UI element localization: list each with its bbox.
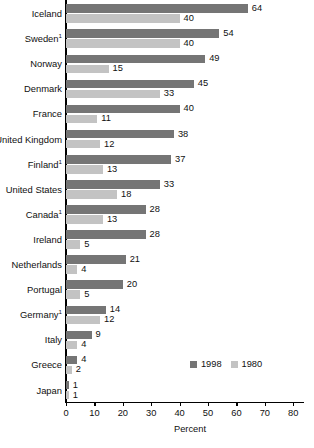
bar-value-label: 4 bbox=[81, 265, 86, 274]
bar-value-label: 38 bbox=[178, 130, 188, 139]
bar-1980 bbox=[66, 39, 180, 48]
bar-value-label: 4 bbox=[81, 355, 86, 364]
bar-1998 bbox=[66, 356, 77, 365]
bar-value-label: 64 bbox=[252, 4, 262, 13]
bar-1998 bbox=[66, 255, 126, 264]
category-label: France bbox=[0, 109, 62, 118]
category-label: Finland1 bbox=[0, 160, 62, 169]
bar-1980 bbox=[66, 90, 160, 99]
bar-value-label: 33 bbox=[164, 89, 174, 98]
category-label: United States bbox=[0, 185, 62, 194]
bar-value-label: 12 bbox=[104, 315, 114, 324]
category-label: Canada1 bbox=[0, 210, 62, 219]
bar-1998 bbox=[66, 4, 248, 13]
bar-row: Japan11 bbox=[66, 378, 314, 403]
bar-value-label: 1 bbox=[73, 391, 78, 400]
bar-value-label: 13 bbox=[107, 215, 117, 224]
bar-value-label: 5 bbox=[84, 290, 89, 299]
legend-label: 1980 bbox=[241, 360, 262, 369]
bar-row: Iceland6440 bbox=[66, 1, 314, 26]
x-tick-mark bbox=[180, 402, 181, 406]
bar-1980 bbox=[66, 115, 97, 124]
category-label: Norway bbox=[0, 59, 62, 68]
bar-row: Finland13713 bbox=[66, 152, 314, 177]
bar-1980 bbox=[66, 391, 69, 400]
x-tick-mark bbox=[208, 402, 209, 406]
bar-row: Sweden15440 bbox=[66, 26, 314, 51]
bar-row: Netherlands214 bbox=[66, 252, 314, 277]
bar-row: Italy94 bbox=[66, 327, 314, 352]
legend-entry-1980: 1980 bbox=[231, 360, 263, 369]
category-label: Italy bbox=[0, 335, 62, 344]
category-label: Ireland bbox=[0, 235, 62, 244]
bar-1980 bbox=[66, 240, 80, 249]
bar-row: United States3318 bbox=[66, 177, 314, 202]
category-label: Netherlands bbox=[0, 260, 62, 269]
bar-value-label: 37 bbox=[175, 155, 185, 164]
x-tick-label: 40 bbox=[174, 409, 184, 418]
bar-1980 bbox=[66, 290, 80, 299]
bar-value-label: 2 bbox=[76, 365, 81, 374]
bar-row: Ireland285 bbox=[66, 227, 314, 252]
bar-1998 bbox=[66, 155, 171, 164]
bar-row: France4011 bbox=[66, 101, 314, 126]
legend-entry-1998: 1998 bbox=[190, 360, 222, 369]
x-tick-mark bbox=[66, 402, 67, 406]
bar-value-label: 14 bbox=[110, 305, 120, 314]
bar-1998 bbox=[66, 280, 123, 289]
bar-value-label: 13 bbox=[107, 165, 117, 174]
category-label: Japan bbox=[0, 386, 62, 395]
bar-value-label: 9 bbox=[96, 330, 101, 339]
x-tick-mark bbox=[293, 402, 294, 406]
bar-value-label: 40 bbox=[184, 104, 194, 113]
bar-1980 bbox=[66, 265, 77, 274]
x-tick-label: 70 bbox=[260, 409, 270, 418]
bar-1998 bbox=[66, 180, 160, 189]
bar-1980 bbox=[66, 190, 117, 199]
bar-value-label: 1 bbox=[73, 381, 78, 390]
x-tick-label: 50 bbox=[203, 409, 213, 418]
x-tick-mark bbox=[123, 402, 124, 406]
bar-value-label: 40 bbox=[184, 14, 194, 23]
bar-row: Denmark4533 bbox=[66, 76, 314, 101]
bar-1998 bbox=[66, 130, 174, 139]
category-label: Germany1 bbox=[0, 310, 62, 319]
bar-value-label: 18 bbox=[121, 190, 131, 199]
bar-value-label: 5 bbox=[84, 240, 89, 249]
category-label: Denmark bbox=[0, 84, 62, 93]
bar-value-label: 49 bbox=[209, 54, 219, 63]
x-tick-label: 20 bbox=[118, 409, 128, 418]
bar-1998 bbox=[66, 205, 146, 214]
bar-row: Germany11412 bbox=[66, 302, 314, 327]
x-tick-mark bbox=[94, 402, 95, 406]
bar-1980 bbox=[66, 140, 100, 149]
legend-swatch-icon bbox=[190, 361, 197, 368]
chart-legend: 19981980 bbox=[190, 360, 262, 369]
bar-row: United Kingdom3812 bbox=[66, 127, 314, 152]
bar-row: Portugal205 bbox=[66, 277, 314, 302]
bar-row: Norway4915 bbox=[66, 51, 314, 76]
x-tick-label: 80 bbox=[288, 409, 298, 418]
bar-1980 bbox=[66, 14, 180, 23]
x-tick-mark bbox=[151, 402, 152, 406]
bar-value-label: 28 bbox=[150, 205, 160, 214]
bar-1998 bbox=[66, 230, 146, 239]
x-axis-title: Percent bbox=[66, 425, 314, 434]
x-tick-mark bbox=[265, 402, 266, 406]
category-label: Sweden1 bbox=[0, 34, 62, 43]
bar-chart: Iceland6440Sweden15440Norway4915Denmark4… bbox=[0, 0, 314, 448]
bar-1980 bbox=[66, 65, 109, 74]
bar-1980 bbox=[66, 165, 103, 174]
x-tick-mark bbox=[236, 402, 237, 406]
bar-value-label: 20 bbox=[127, 280, 137, 289]
x-tick-label: 60 bbox=[231, 409, 241, 418]
bar-value-label: 45 bbox=[198, 79, 208, 88]
category-label: Greece bbox=[0, 360, 62, 369]
bar-1998 bbox=[66, 331, 92, 340]
category-label: United Kingdom bbox=[0, 135, 62, 144]
footnote-marker: 1 bbox=[59, 308, 62, 315]
bar-value-label: 11 bbox=[101, 114, 111, 123]
bar-1998 bbox=[66, 80, 194, 89]
bar-value-label: 12 bbox=[104, 140, 114, 149]
bar-1980 bbox=[66, 316, 100, 325]
